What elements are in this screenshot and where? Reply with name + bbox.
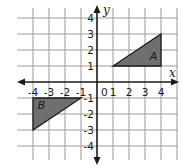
y-tick-label: -4 (84, 140, 95, 152)
x-tick-label: -2 (60, 86, 70, 98)
y-tick-label: -3 (84, 124, 94, 136)
axes: x y 0 (17, 3, 179, 165)
triangle-label-b: B (38, 99, 46, 112)
x-axis-arrow-left-icon (17, 79, 25, 86)
y-axis-label: y (102, 3, 110, 17)
origin-label: 0 (101, 86, 108, 98)
y-tick-label: -1 (84, 92, 94, 104)
y-tick-label: 4 (87, 12, 94, 24)
coordinate-plane: AB x y 0 -4-3-2-112344321-1-2-3-4 (0, 0, 187, 168)
x-axis-label: x (169, 66, 176, 80)
y-tick-label: 1 (87, 60, 94, 72)
x-tick-label: 4 (158, 86, 165, 98)
x-tick-label: -4 (28, 86, 39, 98)
y-tick-label: -2 (84, 108, 94, 120)
y-tick-label: 2 (87, 44, 94, 56)
x-tick-label: 3 (142, 86, 149, 98)
y-tick-label: 3 (87, 28, 94, 40)
triangle-label-a: A (149, 50, 158, 63)
x-tick-label: 1 (110, 86, 117, 98)
y-axis-arrow-up-icon (94, 5, 101, 13)
y-axis-arrow-down-icon (94, 157, 101, 165)
x-tick-label: 2 (126, 86, 133, 98)
x-tick-label: -3 (44, 86, 54, 98)
